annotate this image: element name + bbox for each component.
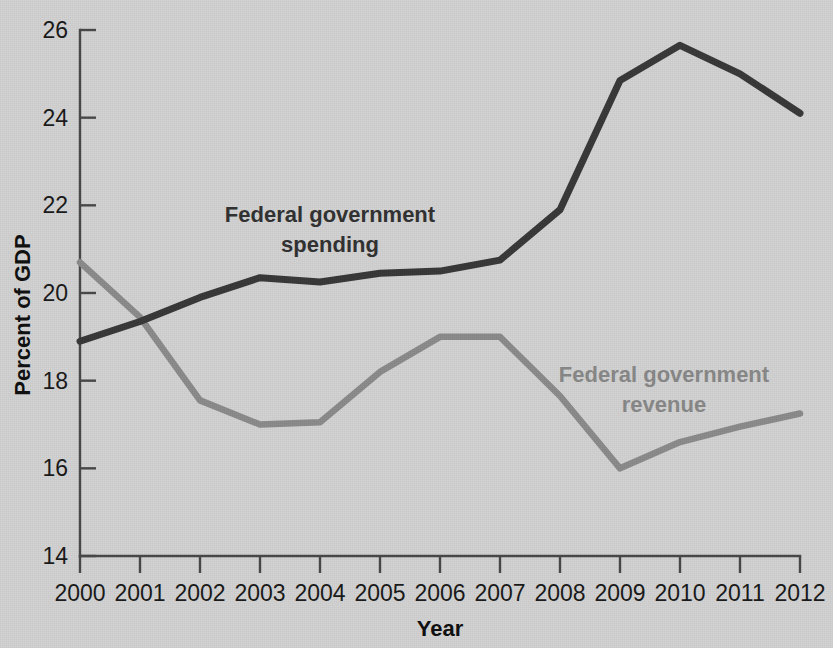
- revenue-label-line1: Federal government: [559, 362, 770, 387]
- y-tick-label: 20: [42, 280, 68, 306]
- x-tick-label: 2012: [774, 580, 825, 606]
- x-axis-title: Year: [417, 616, 464, 641]
- x-tick-label: 2006: [414, 580, 465, 606]
- x-tick-label: 2008: [534, 580, 585, 606]
- x-tick-label: 2003: [234, 580, 285, 606]
- line-chart: 14161820222426 2000200120022003200420052…: [0, 0, 833, 648]
- revenue-label-line2: revenue: [622, 392, 706, 417]
- y-tick-label: 24: [42, 105, 68, 131]
- spending-label-line1: Federal government: [225, 202, 436, 227]
- x-tick-label: 2009: [594, 580, 645, 606]
- x-tick-label: 2005: [354, 580, 405, 606]
- x-tick-label: 2004: [294, 580, 345, 606]
- y-tick-label: 16: [42, 455, 68, 481]
- x-tick-label: 2011: [715, 580, 764, 606]
- x-tick-label: 2002: [174, 580, 225, 606]
- y-axis-title: Percent of GDP: [10, 234, 35, 395]
- spending-label-line2: spending: [281, 232, 379, 257]
- x-tick-label: 2001: [114, 580, 165, 606]
- y-tick-label: 18: [42, 368, 68, 394]
- chart-container: 14161820222426 2000200120022003200420052…: [0, 0, 833, 648]
- x-tick-label: 2010: [654, 580, 705, 606]
- y-tick-label: 22: [42, 192, 68, 218]
- x-tick-label: 2007: [474, 580, 525, 606]
- x-tick-label: 2000: [54, 580, 105, 606]
- y-tick-label: 26: [42, 17, 68, 43]
- y-tick-label: 14: [42, 543, 68, 569]
